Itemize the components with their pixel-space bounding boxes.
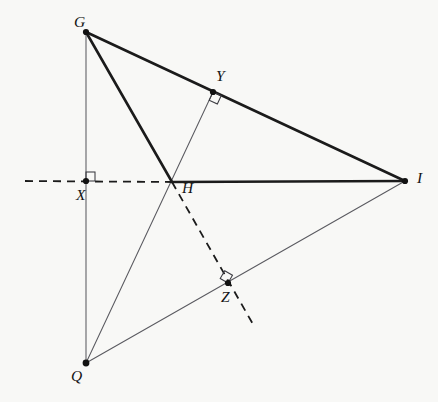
point-label-H: H	[181, 179, 194, 196]
point-label-Q: Q	[71, 367, 82, 384]
point-label-Z: Z	[221, 288, 230, 305]
point-I-dot	[402, 178, 408, 184]
segment-HI	[172, 181, 405, 182]
point-label-Y: Y	[216, 67, 226, 84]
point-label-G: G	[74, 13, 85, 30]
point-Y-dot	[210, 89, 216, 95]
point-Z-dot	[225, 280, 231, 286]
figure-background	[0, 0, 438, 402]
point-label-X: X	[75, 186, 86, 203]
point-label-I: I	[416, 169, 423, 186]
geometry-figure: G I H Q X Y Z	[0, 0, 438, 402]
point-Q-dot	[83, 360, 90, 367]
geometry-canvas: G I H Q X Y Z	[0, 0, 438, 402]
point-X-dot	[83, 178, 89, 184]
